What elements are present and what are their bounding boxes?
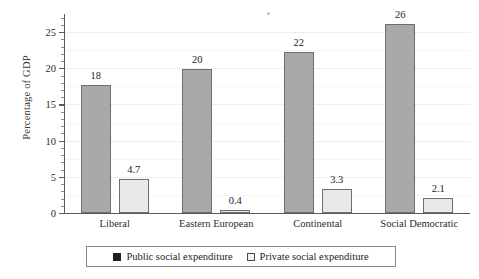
y-tick-minor bbox=[61, 170, 64, 171]
y-tick-minor bbox=[61, 191, 64, 192]
bar-value-label: 26 bbox=[395, 9, 406, 20]
legend-item-public[interactable]: Public social expenditure bbox=[113, 251, 232, 262]
category-label: Eastern European bbox=[179, 218, 253, 229]
y-tick-minor bbox=[61, 90, 64, 91]
bar-private bbox=[423, 198, 453, 213]
bar-value-label: 0.4 bbox=[229, 195, 242, 206]
bar-public bbox=[182, 69, 212, 213]
bar-private bbox=[119, 179, 149, 213]
y-tick-major bbox=[59, 68, 64, 69]
y-tick-minor bbox=[61, 162, 64, 163]
y-tick-minor bbox=[61, 148, 64, 149]
bar-private bbox=[322, 189, 352, 213]
plot-area: 0510152025 184.7200.4223.3262.1 bbox=[64, 14, 470, 214]
y-tick-minor bbox=[61, 47, 64, 48]
y-tick-minor bbox=[61, 199, 64, 200]
y-tick-minor bbox=[61, 54, 64, 55]
y-tick-major bbox=[59, 177, 64, 178]
y-tick-minor bbox=[61, 133, 64, 134]
x-axis-line bbox=[64, 213, 470, 214]
y-tick-label: 15 bbox=[46, 99, 57, 110]
legend-swatch-public-icon bbox=[113, 253, 121, 261]
category-label: Continental bbox=[293, 218, 342, 229]
bar-value-label: 4.7 bbox=[127, 164, 140, 175]
y-tick-minor bbox=[61, 184, 64, 185]
y-tick-minor bbox=[61, 126, 64, 127]
legend-label-private: Private social expenditure bbox=[260, 251, 369, 262]
y-tick-major bbox=[59, 104, 64, 105]
y-tick-label: 10 bbox=[46, 135, 57, 146]
bar-value-label: 20 bbox=[192, 54, 203, 65]
bar-chart-figure: Percentage of GDP 0510152025 184.7200.42… bbox=[0, 0, 479, 279]
y-tick-label: 0 bbox=[51, 208, 56, 219]
bar-value-label: 3.3 bbox=[330, 174, 343, 185]
y-tick-label: 20 bbox=[46, 63, 57, 74]
y-tick-minor bbox=[61, 155, 64, 156]
bar-public bbox=[81, 85, 111, 213]
bar-private bbox=[220, 210, 250, 213]
y-tick-minor bbox=[61, 206, 64, 207]
y-tick-major bbox=[59, 32, 64, 33]
y-tick-minor bbox=[61, 112, 64, 113]
y-tick-minor bbox=[61, 97, 64, 98]
bar-public bbox=[284, 52, 314, 213]
y-tick-major bbox=[59, 141, 64, 142]
y-tick-minor bbox=[61, 61, 64, 62]
y-tick-label: 25 bbox=[46, 27, 57, 38]
y-tick-minor bbox=[61, 119, 64, 120]
category-label: Liberal bbox=[100, 218, 130, 229]
y-axis-line bbox=[64, 14, 65, 214]
y-tick-minor bbox=[61, 18, 64, 19]
category-label: Social Democratic bbox=[380, 218, 458, 229]
bar-value-label: 2.1 bbox=[432, 183, 445, 194]
bar-value-label: 18 bbox=[91, 70, 102, 81]
y-tick-label: 5 bbox=[51, 171, 56, 182]
bar-public bbox=[385, 24, 415, 213]
chart-legend: Public social expenditure Private social… bbox=[86, 246, 396, 267]
y-axis-title: Percentage of GDP bbox=[21, 28, 32, 168]
legend-label-public: Public social expenditure bbox=[126, 251, 232, 262]
legend-swatch-private-icon bbox=[247, 253, 255, 261]
y-tick-minor bbox=[61, 25, 64, 26]
y-tick-minor bbox=[61, 76, 64, 77]
y-tick-minor bbox=[61, 83, 64, 84]
bar-value-label: 22 bbox=[294, 37, 305, 48]
legend-item-private[interactable]: Private social expenditure bbox=[247, 251, 369, 262]
y-tick-major bbox=[59, 213, 64, 214]
y-tick-minor bbox=[61, 39, 64, 40]
